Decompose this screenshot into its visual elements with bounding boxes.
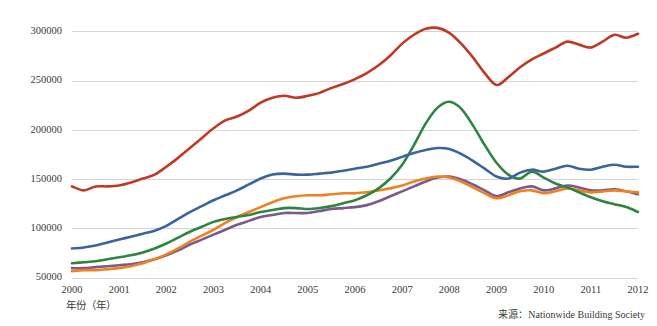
x-tick-label: 2012 [628, 284, 649, 295]
source-note: 来源：Nationwide Building Society [498, 308, 645, 320]
x-tick-label: 2010 [533, 284, 554, 295]
series-lines [72, 28, 638, 272]
series-blue [72, 148, 638, 248]
y-tick-label: 150000 [31, 173, 63, 184]
x-axis-tick-labels: 2000200120022003200420052006200720082009… [62, 284, 649, 295]
x-axis-title: 年份（年） [66, 299, 116, 311]
x-tick-label: 2008 [439, 284, 460, 295]
y-tick-label: 250000 [31, 74, 63, 85]
series-red [72, 28, 638, 191]
series-orange [72, 177, 638, 272]
x-tick-label: 2000 [62, 284, 83, 295]
x-tick-label: 2002 [156, 284, 177, 295]
x-tick-label: 2005 [297, 284, 318, 295]
x-tick-label: 2004 [250, 284, 272, 295]
series-purple [72, 176, 638, 268]
x-tick-label: 2007 [392, 284, 413, 295]
y-tick-label: 200000 [31, 124, 63, 135]
series-green [72, 102, 638, 264]
x-tick-label: 2003 [203, 284, 224, 295]
x-tick-label: 2011 [581, 284, 602, 295]
gridlines [72, 32, 638, 278]
chart-container: 30000025000020000015000010000050000 2000… [0, 0, 657, 326]
y-tick-label: 300000 [31, 25, 63, 36]
line-chart: 30000025000020000015000010000050000 2000… [0, 0, 657, 326]
y-axis-tick-labels: 30000025000020000015000010000050000 [31, 25, 63, 282]
y-tick-label: 50000 [36, 271, 62, 282]
y-tick-label: 100000 [31, 222, 63, 233]
x-tick-label: 2001 [109, 284, 130, 295]
x-tick-label: 2009 [486, 284, 507, 295]
x-tick-label: 2006 [345, 284, 366, 295]
